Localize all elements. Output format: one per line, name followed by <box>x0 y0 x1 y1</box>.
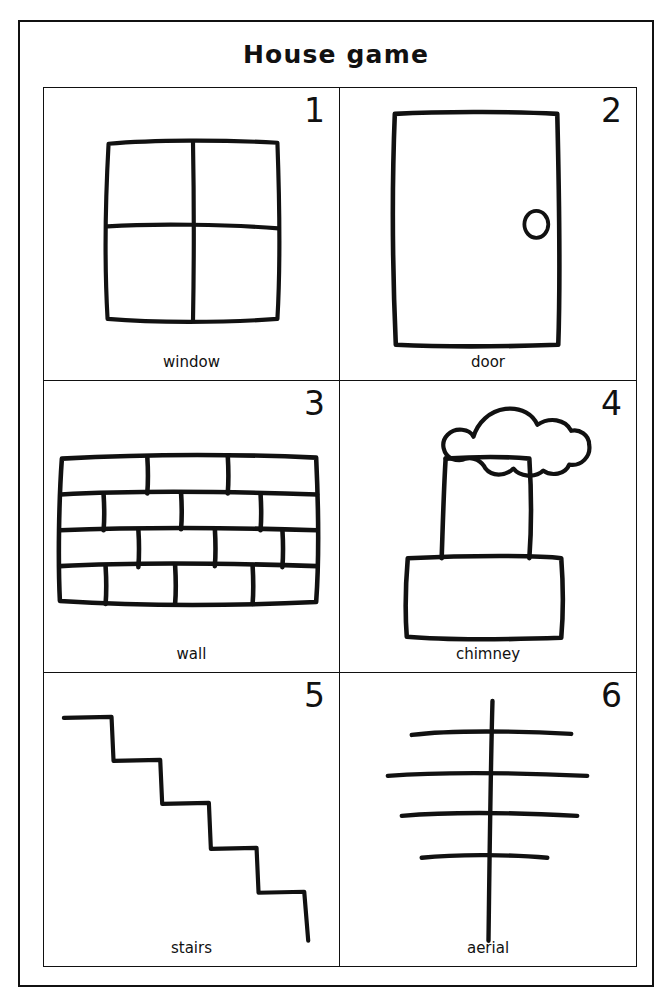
card-label: stairs <box>44 939 339 957</box>
page-title: House game <box>18 40 654 69</box>
card-door[interactable]: 2 door <box>340 88 636 381</box>
card-window[interactable]: 1 window <box>44 88 340 381</box>
card-label: chimney <box>340 645 636 663</box>
card-chimney[interactable]: 4 chimney <box>340 381 636 674</box>
card-grid: 1 window 2 <box>43 87 637 967</box>
card-aerial[interactable]: 6 aerial <box>340 673 636 966</box>
card-stairs[interactable]: 5 stairs <box>44 673 340 966</box>
card-label: window <box>44 353 339 371</box>
card-label: wall <box>44 645 339 663</box>
card-label: door <box>340 353 636 371</box>
card-wall[interactable]: 3 <box>44 381 340 674</box>
aerial-icon <box>340 673 636 966</box>
chimney-icon <box>340 381 636 673</box>
stairs-icon <box>44 673 339 966</box>
card-label: aerial <box>340 939 636 957</box>
window-icon <box>44 88 339 380</box>
wall-icon <box>44 381 339 673</box>
door-icon <box>340 88 636 380</box>
worksheet-page: House game 1 window 2 <box>0 0 672 1007</box>
